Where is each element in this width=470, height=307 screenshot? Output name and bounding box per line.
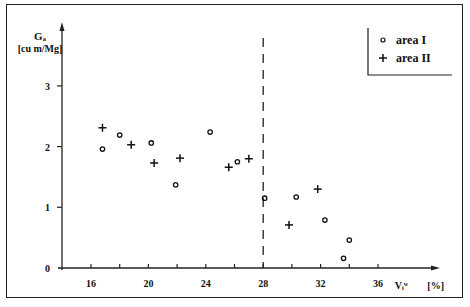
plus-marker-icon bbox=[98, 124, 106, 132]
x-tick-label: 24 bbox=[201, 278, 211, 289]
plus-marker-icon bbox=[245, 155, 253, 163]
x-tick-label: 28 bbox=[258, 278, 268, 289]
legend-label-area-ii: area II bbox=[396, 51, 431, 65]
x-tick-label: 16 bbox=[86, 278, 96, 289]
x-axis-label-symbol: Vᵢʷ bbox=[395, 280, 409, 291]
scatter-chart: 162024283236 0123 Gₐ [cu m/Mg] Vᵢʷ [%] a… bbox=[0, 0, 470, 307]
circle-marker-icon bbox=[149, 141, 153, 145]
y-axis-label-unit: [cu m/Mg] bbox=[18, 43, 63, 54]
x-tick-label: 20 bbox=[143, 278, 153, 289]
plus-marker-icon bbox=[314, 185, 322, 193]
circle-marker-icon bbox=[100, 147, 104, 151]
legend: area I area II bbox=[368, 28, 452, 75]
y-tick-label: 2 bbox=[45, 142, 50, 153]
plus-marker-icon bbox=[225, 163, 233, 171]
legend-label-area-i: area I bbox=[396, 33, 426, 47]
y-tick-label: 3 bbox=[45, 81, 50, 92]
x-tick-label: 32 bbox=[316, 278, 326, 289]
circle-marker-icon bbox=[173, 183, 177, 187]
x-tick-label: 36 bbox=[373, 278, 383, 289]
y-tick-label: 0 bbox=[45, 263, 50, 274]
plus-marker-icon bbox=[285, 221, 293, 229]
circle-marker-icon bbox=[235, 160, 239, 164]
circle-marker-icon bbox=[294, 195, 298, 199]
data-points bbox=[98, 124, 351, 261]
x-axis bbox=[58, 266, 440, 271]
circle-marker-icon bbox=[323, 218, 327, 222]
plus-marker-icon bbox=[150, 159, 158, 167]
y-axis-label-symbol: Gₐ bbox=[34, 30, 47, 42]
legend-circle-marker-icon bbox=[381, 38, 385, 42]
circle-marker-icon bbox=[118, 133, 122, 137]
circle-marker-icon bbox=[347, 238, 351, 242]
plus-marker-icon bbox=[127, 141, 135, 149]
circle-marker-icon bbox=[208, 130, 212, 134]
circle-marker-icon bbox=[341, 256, 345, 260]
plus-marker-icon bbox=[176, 154, 184, 162]
y-ticks: 0123 bbox=[45, 81, 62, 274]
y-tick-label: 1 bbox=[45, 202, 50, 213]
legend-plus-marker-icon bbox=[379, 54, 387, 62]
x-axis-label-unit: [%] bbox=[427, 280, 444, 291]
